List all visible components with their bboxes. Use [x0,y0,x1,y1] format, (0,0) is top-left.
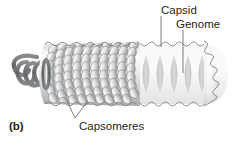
label-genome: Genome [176,18,220,30]
capsid-left-rim [42,58,50,90]
ghost-capsid-section [134,41,228,106]
capsid-solid-section [39,37,140,108]
label-capsid: Capsid [161,4,197,16]
panel-label: (b) [9,120,24,132]
virus-structure-figure: Capsid Genome Capsomeres (b) [0,0,237,145]
label-capsomeres: Capsomeres [79,120,144,132]
